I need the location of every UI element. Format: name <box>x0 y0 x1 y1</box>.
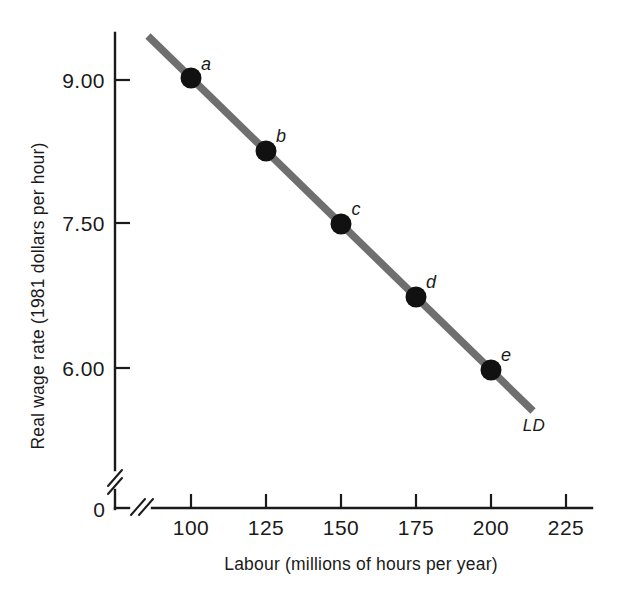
x-tick-label-125: 125 <box>248 516 285 539</box>
data-point-b <box>256 141 277 162</box>
x-tick-label-225: 225 <box>548 516 585 539</box>
labour-demand-figure: 9.00 7.50 6.00 0 100 125 150 175 200 225… <box>0 0 631 593</box>
y-axis-title: Real wage rate (1981 dollars per hour) <box>28 142 48 449</box>
x-tick-label-200: 200 <box>473 516 510 539</box>
y-tick-label-6-00: 6.00 <box>62 357 105 380</box>
x-tick-label-100: 100 <box>173 516 210 539</box>
data-point-c <box>331 214 352 235</box>
data-point-d <box>406 287 427 308</box>
curve-label-ld: LD <box>523 416 546 435</box>
data-point-label-c: c <box>352 199 361 219</box>
data-point-label-e: e <box>501 345 511 365</box>
data-point-label-a: a <box>201 54 211 74</box>
x-tick-label-150: 150 <box>323 516 360 539</box>
data-point-a <box>181 68 202 89</box>
origin-label: 0 <box>93 498 105 521</box>
y-tick-label-9-00: 9.00 <box>62 69 105 92</box>
x-axis-break-icon <box>131 499 153 515</box>
data-point-label-d: d <box>426 272 437 292</box>
y-tick-label-7-50: 7.50 <box>62 212 105 235</box>
x-tick-label-175: 175 <box>398 516 435 539</box>
data-point-label-b: b <box>276 126 286 146</box>
x-axis-title: Labour (millions of hours per year) <box>224 554 498 574</box>
chart-canvas: 9.00 7.50 6.00 0 100 125 150 175 200 225… <box>0 0 631 593</box>
data-point-e <box>481 360 502 381</box>
